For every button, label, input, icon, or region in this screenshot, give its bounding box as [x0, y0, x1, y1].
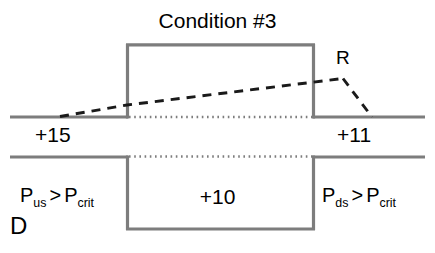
pressure-profile-rising-line [60, 79, 343, 117]
pus-operator: > [46, 184, 64, 206]
pcrit-base-us: P [64, 184, 77, 206]
pds-base: P [322, 184, 335, 206]
downstream-condition-expression: Pds>Pcrit [322, 185, 396, 209]
downstream-pressure-value: +11 [337, 124, 371, 145]
upstream-pressure-value: +15 [35, 124, 71, 145]
upper-vessel-group [10, 44, 425, 119]
pressure-profile-recovery-drop [343, 79, 372, 118]
pus-base: P [20, 184, 33, 206]
pcrit-base-ds: P [366, 184, 379, 206]
figure-title: Condition #3 [0, 10, 435, 31]
pressure-profile-group [60, 79, 372, 118]
pcrit-subscript-ds: crit [379, 196, 396, 210]
reflection-label: R [336, 48, 350, 67]
pcrit-subscript-us: crit [77, 196, 94, 210]
pus-subscript: us [33, 196, 46, 210]
pds-subscript: ds [335, 196, 348, 210]
panel-label: D [10, 214, 27, 238]
pds-operator: > [348, 184, 366, 206]
figure-panel-d: Condition #3 R +15 +11 +10 Pus>Pcrit Pds… [0, 0, 435, 253]
upstream-condition-expression: Pus>Pcrit [20, 185, 94, 209]
